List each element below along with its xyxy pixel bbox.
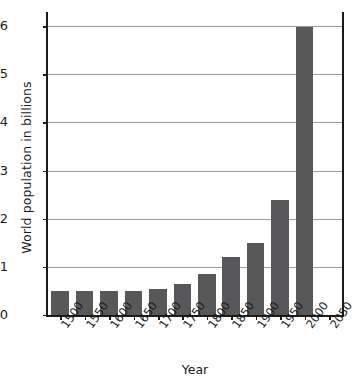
y-tick-label: 4 (0, 114, 8, 129)
bar (271, 200, 289, 315)
y-tick-label: 2 (0, 211, 8, 226)
y-tick-label: 5 (0, 66, 8, 81)
chart-figure: World population in billions 15001550160… (0, 0, 360, 382)
plot-area: 1500155016001650170017501800185019001950… (46, 12, 344, 317)
x-axis-title: Year (46, 362, 344, 377)
y-axis-title: World population in billions (19, 38, 34, 298)
y-tick-label: 3 (0, 163, 8, 178)
y-tick-label: 0 (0, 307, 8, 322)
y-tick-label: 1 (0, 259, 8, 274)
y-tick-label: 6 (0, 18, 8, 33)
bar-series (48, 12, 342, 315)
bar (296, 27, 314, 315)
